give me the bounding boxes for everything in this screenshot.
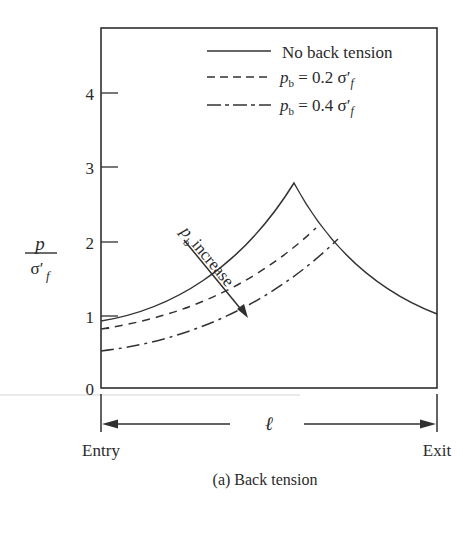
svg-text:p: p bbox=[176, 222, 197, 241]
y-label-denominator-sub: f bbox=[46, 268, 52, 283]
arrow-right-icon bbox=[420, 420, 436, 429]
entry-label: Entry bbox=[82, 441, 120, 460]
y-tick-label-2: 2 bbox=[86, 234, 95, 253]
y-tick-label-1: 1 bbox=[86, 308, 95, 327]
y-ticks bbox=[101, 93, 118, 316]
legend-label-pb-0.2: pb = 0.2 σ′f bbox=[279, 68, 355, 90]
y-tick-label-4: 4 bbox=[86, 85, 95, 104]
legend: No back tension pb = 0.2 σ′f pb = 0.4 σ′… bbox=[207, 43, 393, 118]
y-tick-label-3: 3 bbox=[86, 159, 95, 178]
plot-frame bbox=[101, 28, 437, 388]
length-symbol: ℓ bbox=[265, 413, 273, 434]
y-label-numerator: p bbox=[33, 233, 45, 254]
series-no-back-tension bbox=[101, 183, 437, 321]
legend-label-no-back-tension: No back tension bbox=[282, 43, 393, 62]
arrow-left-icon bbox=[102, 420, 118, 429]
legend-label-pb-0.4: pb = 0.4 σ′f bbox=[279, 96, 355, 118]
back-tension-chart: 4 3 2 1 0 p σ′ f p b increase No back te… bbox=[0, 0, 476, 545]
figure-caption: (a) Back tension bbox=[213, 471, 318, 489]
y-axis-label: p σ′ f bbox=[25, 233, 57, 283]
y-tick-label-0: 0 bbox=[86, 380, 95, 399]
pb-increase-label: p b increase bbox=[174, 222, 238, 293]
svg-text:increase: increase bbox=[188, 235, 238, 290]
y-label-denominator: σ′ bbox=[31, 259, 44, 278]
exit-label: Exit bbox=[423, 441, 452, 460]
